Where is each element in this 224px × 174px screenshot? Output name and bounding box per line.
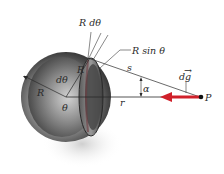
label-distance-r: r: [120, 97, 126, 108]
label-dtheta: dθ: [56, 74, 68, 85]
rdtheta-leader-3: [93, 35, 108, 60]
label-dg-arrow: →: [184, 65, 192, 76]
field-vector-arrowhead: [160, 92, 172, 102]
label-ring-r: R: [76, 64, 84, 75]
label-s: s: [127, 62, 132, 73]
label-alpha: α: [143, 83, 150, 94]
label-r-sin-theta: R sin θ: [131, 45, 165, 56]
label-radius-r: R: [36, 87, 44, 98]
label-r-dtheta: R dθ: [78, 17, 101, 28]
point-p-marker: [199, 95, 204, 100]
label-theta: θ: [62, 102, 68, 113]
shell-gravity-diagram: R dθ R sin θ s dg → α P R dθ θ r R: [0, 0, 224, 174]
alpha-arrowhead-top: [140, 77, 143, 81]
label-p: P: [204, 92, 212, 103]
rdtheta-leader-2: [89, 33, 101, 58]
